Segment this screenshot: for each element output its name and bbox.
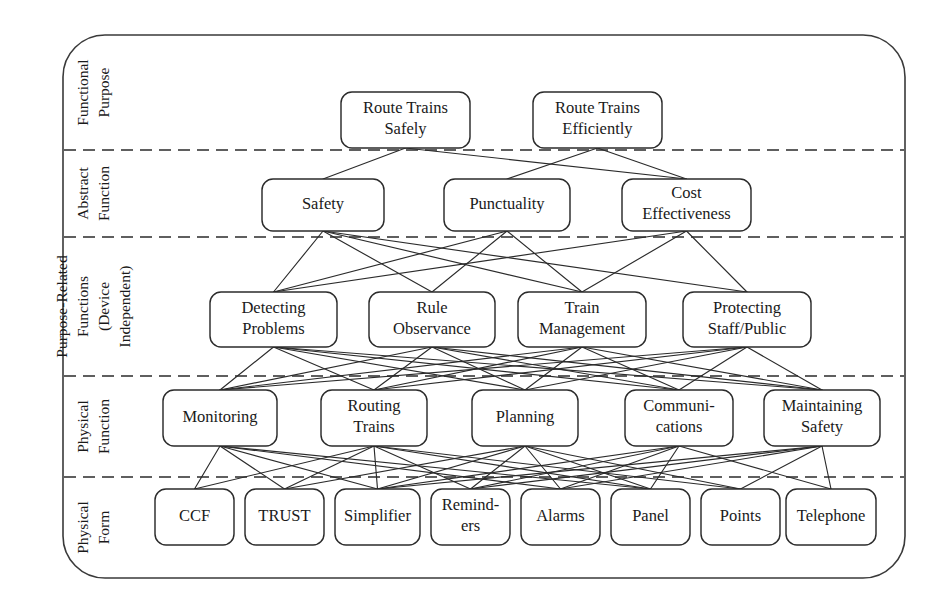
node-label-alarms: Alarms bbox=[536, 506, 585, 525]
node-panel[interactable]: Panel bbox=[611, 489, 690, 545]
node-label-reminders: Remind- bbox=[442, 495, 500, 514]
edge-cost-effectiveness--protecting-staff-public bbox=[687, 231, 748, 292]
node-telephone[interactable]: Telephone bbox=[786, 489, 876, 545]
node-label-monitoring: Monitoring bbox=[182, 407, 257, 426]
edge-communications--panel bbox=[651, 446, 680, 489]
node-label-route-trains-safely: Safely bbox=[384, 119, 427, 138]
edge-planning--trust bbox=[285, 446, 526, 489]
node-train-management[interactable]: TrainManagement bbox=[518, 292, 646, 347]
node-route-trains-efficiently[interactable]: Route TrainsEfficiently bbox=[533, 92, 662, 148]
node-label-protecting-staff-public: Staff/Public bbox=[708, 319, 787, 338]
level-label-line: Independent) bbox=[116, 266, 134, 348]
edge-routing-trains--simplifier bbox=[374, 446, 378, 489]
node-communications[interactable]: Communi-cations bbox=[625, 390, 733, 446]
node-monitoring[interactable]: Monitoring bbox=[163, 390, 277, 446]
node-label-rule-observance: Observance bbox=[393, 319, 471, 338]
node-label-communications: Communi- bbox=[643, 396, 715, 415]
level-label-layer: FunctionalPurposeAbstractFunctionPurpose… bbox=[53, 59, 134, 553]
node-maintaining-safety[interactable]: MaintainingSafety bbox=[764, 390, 880, 446]
node-label-punctuality: Punctuality bbox=[469, 194, 545, 213]
node-label-route-trains-safely: Route Trains bbox=[363, 98, 448, 117]
node-planning[interactable]: Planning bbox=[472, 390, 578, 446]
node-label-trust: TRUST bbox=[258, 506, 310, 525]
node-safety[interactable]: Safety bbox=[262, 179, 384, 231]
edge-route-trains-safely--cost-effectiveness bbox=[406, 148, 687, 179]
edge-punctuality--rule-observance bbox=[432, 231, 507, 292]
level-label-line: Function bbox=[95, 166, 112, 221]
node-label-telephone: Telephone bbox=[797, 506, 865, 525]
level-label-line: Functions bbox=[74, 276, 91, 337]
node-label-rule-observance: Rule bbox=[416, 298, 447, 317]
level-label-abstract-function: AbstractFunction bbox=[74, 166, 112, 221]
node-label-route-trains-efficiently: Efficiently bbox=[562, 119, 633, 138]
node-ccf[interactable]: CCF bbox=[155, 489, 234, 545]
edge-maintaining-safety--telephone bbox=[822, 446, 831, 489]
node-alarms[interactable]: Alarms bbox=[521, 489, 600, 545]
abstraction-hierarchy-diagram: FunctionalPurposeAbstractFunctionPurpose… bbox=[0, 0, 943, 609]
edge-planning--reminders bbox=[471, 446, 526, 489]
node-label-route-trains-efficiently: Route Trains bbox=[555, 98, 640, 117]
node-cost-effectiveness[interactable]: CostEffectiveness bbox=[622, 179, 751, 231]
node-protecting-staff-public[interactable]: ProtectingStaff/Public bbox=[683, 292, 811, 347]
node-label-detecting-problems: Detecting bbox=[241, 298, 305, 317]
node-label-safety: Safety bbox=[302, 194, 345, 213]
edge-route-trains-safely--safety bbox=[323, 148, 406, 179]
edge-cost-effectiveness--train-management bbox=[582, 231, 687, 292]
level-label-line: Form bbox=[95, 511, 112, 545]
level-label-line: Abstract bbox=[74, 167, 91, 220]
level-label-line: Functional bbox=[74, 59, 91, 125]
node-label-panel: Panel bbox=[632, 506, 669, 525]
node-label-train-management: Train bbox=[564, 298, 599, 317]
node-detecting-problems[interactable]: DetectingProblems bbox=[210, 292, 337, 347]
node-label-planning: Planning bbox=[496, 407, 555, 426]
node-reminders[interactable]: Remind-ers bbox=[431, 489, 510, 545]
level-label-line: (Device bbox=[95, 282, 113, 331]
edge-monitoring--ccf bbox=[195, 446, 221, 489]
edge-cost-effectiveness--detecting-problems bbox=[274, 231, 687, 292]
node-route-trains-safely[interactable]: Route TrainsSafely bbox=[341, 92, 470, 148]
node-trust[interactable]: TRUST bbox=[245, 489, 324, 545]
level-label-purpose-related-functions: Purpose-RelatedFunctions(DeviceIndepende… bbox=[53, 255, 134, 358]
node-label-ccf: CCF bbox=[179, 506, 210, 525]
node-label-detecting-problems: Problems bbox=[242, 319, 304, 338]
level-label-line: Purpose bbox=[95, 67, 112, 117]
diagram-canvas: FunctionalPurposeAbstractFunctionPurpose… bbox=[0, 0, 943, 609]
node-label-cost-effectiveness: Cost bbox=[671, 183, 702, 202]
edge-communications--alarms bbox=[561, 446, 680, 489]
level-label-line: Purpose-Related bbox=[53, 255, 70, 358]
node-label-maintaining-safety: Maintaining bbox=[782, 396, 863, 415]
node-rule-observance[interactable]: RuleObservance bbox=[369, 292, 495, 347]
edge-safety--train-management bbox=[323, 231, 582, 292]
node-label-reminders: ers bbox=[461, 516, 480, 535]
level-label-line: Function bbox=[95, 399, 112, 454]
node-label-protecting-staff-public: Protecting bbox=[713, 298, 781, 317]
edge-safety--detecting-problems bbox=[274, 231, 324, 292]
level-label-functional-purpose: FunctionalPurpose bbox=[74, 59, 112, 125]
node-label-routing-trains: Trains bbox=[353, 417, 395, 436]
node-label-points: Points bbox=[720, 506, 761, 525]
node-label-train-management: Management bbox=[539, 319, 626, 338]
node-punctuality[interactable]: Punctuality bbox=[444, 179, 570, 231]
node-simplifier[interactable]: Simplifier bbox=[335, 489, 420, 545]
level-label-line: Physical bbox=[74, 400, 91, 453]
node-label-simplifier: Simplifier bbox=[344, 506, 411, 525]
edge-detecting-problems--maintaining-safety bbox=[274, 347, 823, 390]
level-label-physical-function: PhysicalFunction bbox=[74, 399, 112, 454]
node-points[interactable]: Points bbox=[701, 489, 780, 545]
node-label-routing-trains: Routing bbox=[347, 396, 400, 415]
edge-route-trains-efficiently--punctuality bbox=[507, 148, 598, 179]
level-label-line: Physical bbox=[74, 501, 91, 554]
edge-detecting-problems--monitoring bbox=[220, 347, 274, 390]
edge-protecting-staff-public--monitoring bbox=[220, 347, 747, 390]
edge-safety--protecting-staff-public bbox=[323, 231, 747, 292]
node-label-cost-effectiveness: Effectiveness bbox=[642, 204, 731, 223]
node-label-communications: cations bbox=[656, 417, 703, 436]
node-label-maintaining-safety: Safety bbox=[801, 417, 844, 436]
node-routing-trains[interactable]: RoutingTrains bbox=[321, 390, 427, 446]
level-label-physical-form: PhysicalForm bbox=[74, 501, 112, 554]
